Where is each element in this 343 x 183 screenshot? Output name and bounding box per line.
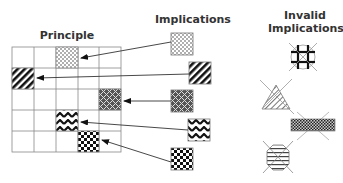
invalid-implications-column <box>260 43 335 173</box>
grid-cell-diagonal-stripes <box>12 68 34 89</box>
implication-diagonal-stripes <box>189 62 211 84</box>
implication-dots <box>171 33 193 55</box>
invalid-rectangle-checker <box>291 112 335 140</box>
invalid-octagon-stripes <box>263 141 293 173</box>
diagram-canvas <box>0 0 343 183</box>
implications-column <box>171 33 211 170</box>
implication-checkerboard <box>171 148 193 170</box>
principle-grid <box>12 47 121 152</box>
grid-cell-weave <box>99 89 121 110</box>
invalid-circle-grid <box>289 43 317 71</box>
grid-cell-dots <box>56 47 78 68</box>
implication-weave <box>171 90 193 112</box>
grid-cell-checkerboard <box>78 131 99 152</box>
implication-zigzag <box>188 119 210 141</box>
grid-cell-zigzag <box>56 110 78 131</box>
invalid-triangle-hatched <box>260 79 294 114</box>
